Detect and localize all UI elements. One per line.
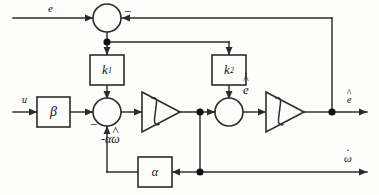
label-output-omegadot: · ω <box>344 153 352 164</box>
label-edot-hat: · ^ e <box>243 83 249 96</box>
gain-block-alpha-label: α <box>138 157 172 187</box>
summing-junction-right <box>215 98 243 126</box>
sign-main-sum-minus: − <box>90 118 97 131</box>
edot-hat-wrap: · ^ e <box>243 83 249 96</box>
label-input-error: e <box>48 3 53 14</box>
hat-accent-output-e: ^ <box>347 88 352 98</box>
hat-accent-feedback: ^ <box>112 124 118 137</box>
integrator-block-2[interactable] <box>266 92 304 132</box>
output-omegadot-wrap: · ω <box>344 153 352 164</box>
integrator-block-1[interactable] <box>142 92 180 132</box>
gain-block-k2-label: k2 <box>212 55 246 85</box>
output-ehat-wrap: ^ e <box>347 95 351 105</box>
label-feedback-alpha-omega: -α ^ ω <box>101 133 120 145</box>
hat-accent-edot: ^ <box>243 73 249 85</box>
gain-block-beta-label: β <box>37 97 70 127</box>
gain-block-k1-label: k1 <box>90 55 124 85</box>
junction-dot-output <box>328 108 335 115</box>
block-diagram-canvas: e − u k1 k2 β α − -α ^ ω · ^ e ^ e <box>0 0 379 195</box>
sign-top-sum-minus: − <box>124 5 131 18</box>
label-output-ehat: ^ e <box>347 95 351 105</box>
k2-subscript: 2 <box>230 66 234 75</box>
dot-accent-omega: · <box>346 144 350 156</box>
summing-junction-top <box>93 4 121 32</box>
junction-dot-bottom-branch <box>196 168 203 175</box>
label-input-u: u <box>22 95 27 105</box>
junction-dot-top-branch <box>103 38 110 45</box>
junction-dot-mid-branch <box>196 108 203 115</box>
k1-subscript: 1 <box>108 66 112 75</box>
feedback-variable-hat: ^ ω <box>111 133 119 145</box>
